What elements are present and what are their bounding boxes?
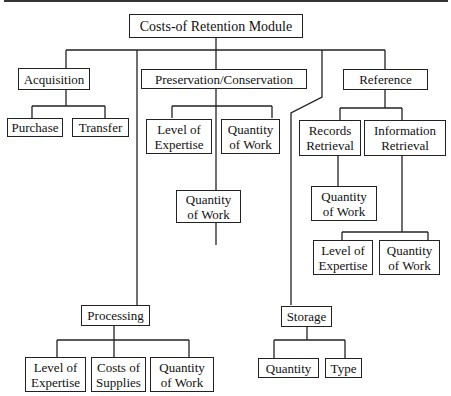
node-transfer: Transfer — [72, 118, 129, 137]
node-information-retrieval: Information Retrieval — [364, 120, 446, 156]
node-reference: Reference — [343, 69, 428, 90]
node-processing: Processing — [81, 305, 150, 326]
node-preservation-quantity-of-work-below: Quantity of Work — [176, 190, 241, 223]
node-information-quantity-of-work: Quantity of Work — [379, 240, 440, 275]
node-storage-quantity: Quantity — [258, 358, 319, 378]
node-costs-of-retention-module: Costs-of Retention Module — [129, 14, 303, 38]
node-preservation-quantity-of-work-right: Quantity of Work — [221, 119, 280, 154]
node-preservation-level-of-expertise: Level of Expertise — [146, 119, 212, 154]
node-records-quantity-of-work: Quantity of Work — [311, 186, 377, 221]
node-processing-costs-of-supplies: Costs of Supplies — [91, 357, 146, 392]
node-storage-type: Type — [325, 358, 362, 378]
node-storage: Storage — [281, 306, 332, 327]
node-preservation-conservation: Preservation/Conservation — [141, 69, 307, 89]
node-processing-level-of-expertise: Level of Expertise — [25, 357, 86, 392]
node-acquisition: Acquisition — [18, 68, 90, 90]
node-records-retrieval: Records Retrieval — [299, 120, 361, 156]
node-information-level-of-expertise: Level of Expertise — [313, 240, 373, 275]
node-purchase: Purchase — [7, 118, 63, 137]
node-processing-quantity-of-work: Quantity of Work — [150, 357, 214, 392]
